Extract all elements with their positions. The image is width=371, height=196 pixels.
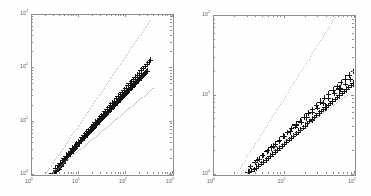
guide-dot [144,96,145,97]
x-tick [326,15,327,17]
x-tick [158,172,159,174]
guide-dot [71,135,72,136]
x-tick [268,15,269,17]
y-tick [352,39,354,40]
x-tick [64,172,65,174]
x-tick [262,172,263,174]
guide-dot [253,147,254,148]
guide-dot [146,94,147,95]
guide-dot [70,157,71,158]
guide-dot [289,89,290,90]
guide-dot [241,173,242,174]
y-tick [352,19,354,20]
guide-dot [136,102,137,103]
y-tick [213,95,216,96]
y-tick [31,83,33,84]
guide-dot [109,125,110,126]
guide-dot [350,92,351,93]
guide-dot [49,168,50,169]
guide-dot [118,117,119,118]
y-tick [213,33,215,34]
guide-dot [101,131,102,132]
guide-dot [273,150,274,151]
y-tick [352,71,354,72]
y-tick [352,57,354,58]
guide-dot [290,137,291,138]
guide-dot [108,126,109,127]
guide-dot [263,131,264,132]
y-tick [170,133,172,134]
guide-dot [301,71,302,72]
y-tick [170,79,172,80]
y-tick [213,47,215,48]
y-tick [213,126,215,127]
x-tick [147,172,148,174]
guide-dot [149,21,150,22]
guide-dot [153,88,154,89]
guide-dot [129,108,130,109]
guide-dot [139,35,140,36]
y-tick [352,27,354,28]
guide-dot [272,116,273,117]
guide-dot [326,110,327,111]
y-tick [213,57,215,58]
guide-dot [259,137,260,138]
guide-dot [152,88,153,89]
guide-dot [134,43,135,44]
guide-dot [113,121,114,122]
y-tick [213,23,215,24]
x-tick [153,172,154,174]
guide-dot [115,71,116,72]
guide-dot [104,88,105,89]
x-tick [115,172,116,174]
guide-dot [131,47,132,48]
guide-dot [301,129,302,130]
x-tick [59,172,60,174]
guide-dot [315,118,316,119]
guide-dot [148,92,149,93]
x-tick-label: 101 [72,179,80,184]
y-tick [352,118,354,119]
guide-dot [309,123,310,124]
guide-dot [81,122,82,123]
guide-dot [112,122,113,123]
guide-dot [126,110,127,111]
guide-dot [110,78,111,79]
guide-dot [61,165,62,166]
guide-dot [75,129,76,130]
guide-dot [72,134,73,135]
guide-dot [85,145,86,146]
guide-dot [268,153,269,154]
guide-dot [254,145,255,146]
x-tick [139,172,140,174]
guide-dot [135,41,136,42]
guide-dot [302,69,303,70]
guide-dot [137,38,138,39]
x-tick [78,171,79,174]
guide-dot [149,91,150,92]
guide-dot [262,158,263,159]
y-tick [213,98,215,99]
x-tick [347,172,348,174]
guide-dot [141,34,142,35]
guide-dot [345,96,346,97]
guide-dot [72,156,73,157]
guide-dot [51,166,52,167]
guide-dot [120,64,121,65]
guide-dot [58,155,59,156]
x-tick [111,172,112,174]
guide-dot [55,159,56,160]
guide-dot [317,117,318,118]
guide-dot [348,94,349,95]
guide-dot [330,108,331,109]
guide-dot [334,104,335,105]
guide-dot [255,143,256,144]
x-tick [284,171,285,174]
y-tick [352,150,354,151]
guide-dot [324,34,325,35]
guide-dot [56,157,57,158]
guide-dot [106,127,107,128]
x-tick-label: 100 [25,179,33,184]
x-tick [268,172,269,174]
y-tick [351,15,354,16]
